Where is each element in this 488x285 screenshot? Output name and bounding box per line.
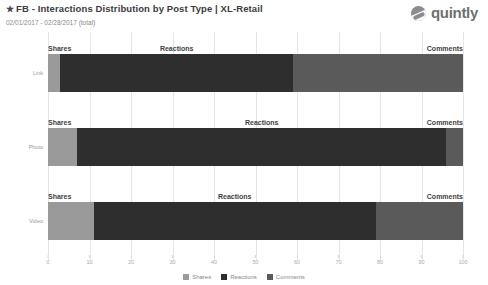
stacked-bar: SharesReactionsComments xyxy=(48,128,463,166)
bar-segment-reactions[interactable]: Reactions xyxy=(94,202,376,240)
chart-plot: LinkSharesReactionsCommentsPhotoSharesRe… xyxy=(0,32,488,260)
segment-label-shares: Shares xyxy=(48,193,71,200)
axis-tick: 90 xyxy=(418,260,424,266)
axis-tick: 60 xyxy=(294,260,300,266)
segment-label-shares: Shares xyxy=(48,45,71,52)
tick-mark-icon xyxy=(421,255,422,258)
axis-tick: 0 xyxy=(46,260,49,266)
axis-tick-label: 20 xyxy=(128,259,134,266)
legend-swatch-icon xyxy=(183,274,189,280)
segment-label-reactions: Reactions xyxy=(218,193,251,200)
tick-mark-icon xyxy=(297,255,298,258)
tick-mark-icon xyxy=(89,255,90,258)
chart-widget: ★FB - Interactions Distribution by Post … xyxy=(0,0,488,285)
chart-legend: SharesReactionsComments xyxy=(0,273,488,281)
segment-label-reactions: Reactions xyxy=(160,45,193,52)
tick-mark-icon xyxy=(463,255,464,258)
star-icon: ★ xyxy=(6,3,14,15)
title-block: ★FB - Interactions Distribution by Post … xyxy=(6,3,263,27)
bar-segment-comments[interactable]: Comments xyxy=(376,202,463,240)
page-title: ★FB - Interactions Distribution by Post … xyxy=(6,3,263,15)
axis-tick-label: 0 xyxy=(46,259,49,266)
axis-tick-label: 10 xyxy=(86,259,92,266)
axis-tick-label: 80 xyxy=(377,259,383,266)
legend-swatch-icon xyxy=(221,274,227,280)
axis-tick-label: 70 xyxy=(335,259,341,266)
tick-mark-icon xyxy=(214,255,215,258)
axis-tick-label: 40 xyxy=(211,259,217,266)
gridline xyxy=(463,32,464,260)
legend-item-shares[interactable]: Shares xyxy=(183,273,211,281)
chart-row: VideoSharesReactionsComments xyxy=(48,182,463,252)
segment-label-reactions: Reactions xyxy=(245,119,278,126)
brand-logo: quintly xyxy=(411,5,478,21)
tick-mark-icon xyxy=(255,255,256,258)
legend-item-comments[interactable]: Comments xyxy=(267,273,305,281)
brand-name: quintly xyxy=(431,5,478,21)
row-label-photo: Photo xyxy=(3,144,43,150)
legend-label: Reactions xyxy=(230,273,257,281)
tick-mark-icon xyxy=(131,255,132,258)
x-axis: 0102030405060708090100 xyxy=(48,260,463,272)
axis-tick-label: 30 xyxy=(169,259,175,266)
chart-row: PhotoSharesReactionsComments xyxy=(48,108,463,178)
axis-tick: 30 xyxy=(169,260,175,266)
tick-mark-icon xyxy=(380,255,381,258)
tick-mark-icon xyxy=(172,255,173,258)
legend-item-reactions[interactable]: Reactions xyxy=(221,273,257,281)
bar-segment-reactions[interactable]: Reactions xyxy=(77,128,446,166)
bar-segment-shares[interactable]: Shares xyxy=(48,128,77,166)
axis-tick-label: 50 xyxy=(252,259,258,266)
stacked-bar: SharesReactionsComments xyxy=(48,202,463,240)
axis-tick-label: 100 xyxy=(458,259,467,266)
chart-title-text: FB - Interactions Distribution by Post T… xyxy=(16,3,263,14)
legend-swatch-icon xyxy=(267,274,273,280)
axis-tick: 100 xyxy=(458,260,467,266)
row-label-video: Video xyxy=(3,218,43,224)
axis-tick: 70 xyxy=(335,260,341,266)
axis-tick-label: 90 xyxy=(418,259,424,266)
tick-mark-icon xyxy=(48,255,49,258)
tick-mark-icon xyxy=(338,255,339,258)
bar-segment-comments[interactable]: Comments xyxy=(293,54,463,92)
axis-tick: 40 xyxy=(211,260,217,266)
legend-label: Shares xyxy=(192,273,211,281)
row-label-link: Link xyxy=(3,70,43,76)
segment-label-shares: Shares xyxy=(48,119,71,126)
chart-header: ★FB - Interactions Distribution by Post … xyxy=(0,0,488,30)
axis-tick: 50 xyxy=(252,260,258,266)
quintly-logo-icon xyxy=(411,6,426,21)
axis-tick: 10 xyxy=(86,260,92,266)
stacked-bar: SharesReactionsComments xyxy=(48,54,463,92)
axis-tick-label: 60 xyxy=(294,259,300,266)
plot-area: LinkSharesReactionsCommentsPhotoSharesRe… xyxy=(48,32,463,260)
bar-segment-shares[interactable]: Shares xyxy=(48,202,94,240)
axis-tick: 80 xyxy=(377,260,383,266)
bar-segment-reactions[interactable]: Reactions xyxy=(60,54,292,92)
axis-tick: 20 xyxy=(128,260,134,266)
segment-label-comments: Comments xyxy=(427,119,463,126)
segment-label-comments: Comments xyxy=(427,193,463,200)
legend-label: Comments xyxy=(276,273,305,281)
segment-label-comments: Comments xyxy=(427,45,463,52)
chart-row: LinkSharesReactionsComments xyxy=(48,34,463,104)
bar-segment-comments[interactable]: Comments xyxy=(446,128,463,166)
bar-segment-shares[interactable]: Shares xyxy=(48,54,60,92)
chart-subtitle: 02/01/2017 - 02/28/2017 (total) xyxy=(6,18,263,27)
